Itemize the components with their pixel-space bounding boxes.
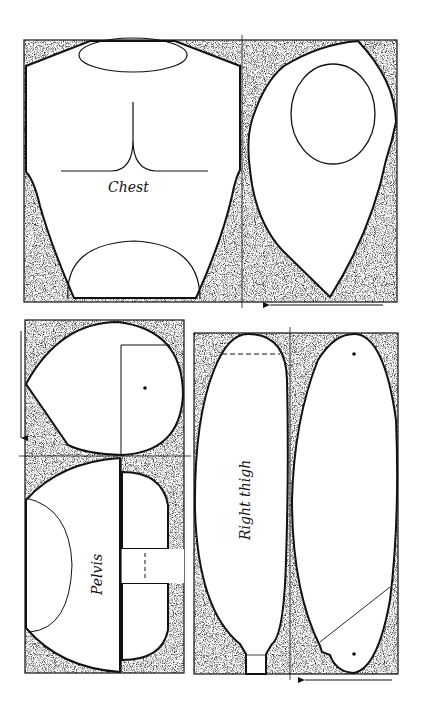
pelvis-panel: Pelvis — [19, 320, 191, 673]
marker-dot — [352, 352, 356, 356]
right-thigh-label: Right thigh — [237, 460, 253, 541]
crotch-strip — [121, 549, 184, 583]
pattern-diagram: Chest Pelvis Right thigh — [0, 0, 425, 719]
chest-panel: Chest — [24, 35, 397, 308]
pelvis-piece — [26, 458, 120, 672]
chest-label: Chest — [108, 179, 149, 195]
marker-dot — [352, 652, 356, 656]
pelvis-label: Pelvis — [89, 554, 105, 596]
thigh-panel: Right thigh — [194, 327, 398, 680]
chest-piece — [26, 41, 240, 298]
marker-dot — [143, 386, 147, 390]
